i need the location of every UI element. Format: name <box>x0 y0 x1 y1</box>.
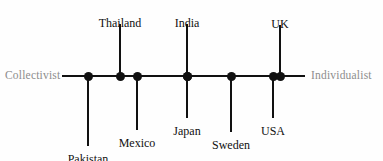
data-point-label-mexico: Mexico <box>119 136 156 151</box>
marker-stem-sweden <box>230 76 232 132</box>
axis-left-pole-label: Collectivist <box>5 69 60 81</box>
data-point-label-uk: UK <box>271 17 288 32</box>
data-point-thailand[interactable] <box>116 72 125 81</box>
data-point-label-india: India <box>175 16 200 31</box>
data-point-pakistan[interactable] <box>84 72 93 81</box>
data-point-label-sweden: Sweden <box>212 138 250 153</box>
marker-stem-japan <box>186 76 188 118</box>
marker-stem-thailand <box>119 24 121 76</box>
marker-stem-usa <box>272 76 274 118</box>
collectivism-individualism-continuum-figure: Collectivist Individualist PakistanThail… <box>0 0 383 161</box>
marker-stem-mexico <box>136 76 138 130</box>
marker-stem-india <box>186 24 188 76</box>
data-point-sweden[interactable] <box>227 72 236 81</box>
data-point-uk[interactable] <box>276 72 285 81</box>
data-point-label-pakistan: Pakistan <box>68 152 109 161</box>
data-point-japan[interactable] <box>183 72 192 81</box>
marker-stem-uk <box>279 25 281 76</box>
axis-right-pole-label: Individualist <box>311 69 372 81</box>
data-point-label-japan: Japan <box>173 124 200 139</box>
data-point-label-thailand: Thailand <box>99 16 142 31</box>
data-point-label-usa: USA <box>261 124 285 139</box>
data-point-mexico[interactable] <box>133 72 142 81</box>
marker-stem-pakistan <box>87 76 89 146</box>
